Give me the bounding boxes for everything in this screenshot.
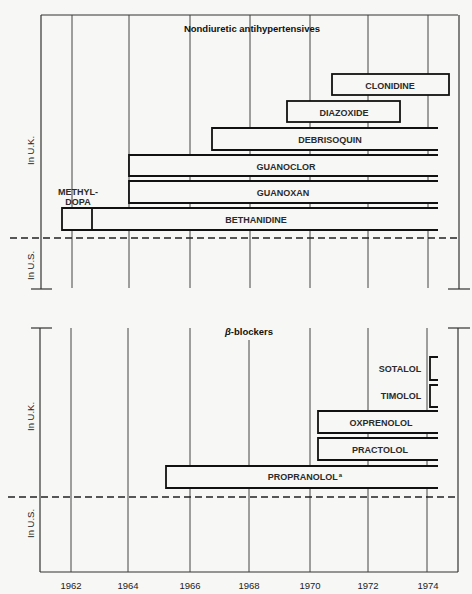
top-panel [10, 15, 470, 289]
label-oxprenolol: OXPRENOLOL [349, 418, 413, 428]
tick-1974: 1974 [417, 580, 438, 591]
label-methyldopa-line1: METHYL- [58, 187, 98, 197]
chart-canvas: Nondiuretic antihypertensives In U.K. In… [0, 0, 472, 594]
tick-1966: 1966 [179, 580, 200, 591]
label-guanoclor: GUANOCLOR [257, 162, 316, 172]
label-propranolol: PROPRANOLOLa [268, 472, 343, 482]
x-axis-ticks: 1962 1964 1966 1968 1970 1972 1974 [60, 580, 438, 591]
top-gridlines [72, 15, 428, 288]
bar-timolol [430, 385, 438, 407]
bottom-title: β-blockers [224, 326, 273, 337]
bottom-us-label: In U.S. [25, 509, 36, 538]
bottom-title-text: -blockers [231, 326, 273, 337]
top-us-label: In U.S. [25, 251, 36, 280]
label-bethanidine: BETHANIDINE [225, 215, 287, 225]
bottom-uk-label: In U.K. [25, 402, 36, 431]
label-methyldopa-line2: DOPA [65, 197, 91, 207]
bar-sotalol [430, 357, 438, 380]
tick-1970: 1970 [299, 580, 320, 591]
label-guanoxan: GUANOXAN [257, 188, 310, 198]
top-uk-label: In U.K. [25, 136, 36, 165]
label-diazoxide: DIAZOXIDE [319, 108, 368, 118]
label-sotalol: SOTALOL [379, 364, 422, 374]
label-clonidine: CLONIDINE [365, 81, 415, 91]
tick-1964: 1964 [117, 580, 138, 591]
tick-1962: 1962 [60, 580, 81, 591]
propranolol-text: PROPRANOLOL [268, 472, 339, 482]
top-title: Nondiuretic antihypertensives [184, 23, 320, 34]
tick-1968: 1968 [238, 580, 259, 591]
label-practolol: PRACTOLOL [352, 445, 408, 455]
label-debrisoquin: DEBRISOQUIN [298, 135, 362, 145]
top-bars [62, 74, 449, 230]
tick-1972: 1972 [357, 580, 378, 591]
label-timolol: TIMOLOL [381, 391, 422, 401]
